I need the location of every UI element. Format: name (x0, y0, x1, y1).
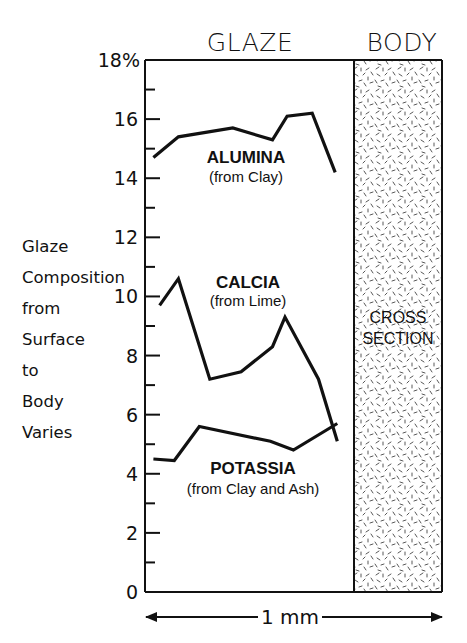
region-title-body: BODY (367, 28, 438, 57)
cross-section-label-line2: SECTION (362, 330, 433, 347)
alumina-sublabel: (from Clay) (209, 168, 283, 185)
y-tick-label: 14 (114, 167, 138, 189)
x-axis-label: 1 mm (261, 605, 319, 629)
y-axis-label-line: Body (22, 392, 64, 411)
y-axis-label-line: Glaze (22, 237, 68, 256)
y-axis-label-line: Surface (22, 330, 85, 349)
y-tick-label: 2 (126, 522, 138, 544)
y-tick-label: 18% (98, 49, 140, 71)
y-tick-label: 16 (114, 108, 138, 130)
y-tick-label: 12 (114, 226, 138, 248)
y-tick-label: 0 (126, 581, 138, 603)
glaze-composition-chart: GLAZE BODY CROSS SECTION 024681012141618… (0, 0, 467, 643)
y-axis-label-line: to (22, 361, 39, 380)
potassia-line (153, 424, 337, 461)
calcia-label: CALCIA (216, 273, 280, 292)
y-axis-label-line: Varies (22, 423, 72, 442)
alumina-label: ALUMINA (207, 148, 285, 167)
y-axis-label-line: from (22, 299, 60, 318)
y-tick-label: 8 (126, 345, 138, 367)
y-axis-label: GlazeCompositionfromSurfacetoBodyVaries (22, 237, 125, 442)
calcia-sublabel: (from Lime) (210, 292, 287, 309)
y-axis-tick-labels: 024681012141618% (98, 49, 140, 603)
y-tick-label: 4 (126, 463, 138, 485)
potassia-label: POTASSIA (210, 459, 296, 478)
region-title-glaze: GLAZE (207, 28, 293, 57)
y-tick-label: 10 (114, 285, 138, 307)
y-axis-label-line: Composition (22, 268, 125, 287)
potassia-sublabel: (from Clay and Ash) (187, 480, 320, 497)
y-axis-ticks (145, 90, 160, 563)
y-tick-label: 6 (126, 404, 138, 426)
cross-section-label-line1: CROSS (370, 309, 427, 326)
